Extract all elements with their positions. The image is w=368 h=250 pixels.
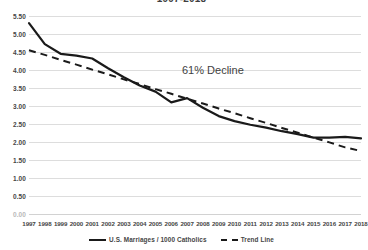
y-tick-label: 3.50 [13, 85, 26, 92]
chart-title: 1997-2018 [0, 0, 363, 4]
x-tick-label: 2000 [70, 220, 83, 227]
x-tick-label: 2005 [149, 220, 162, 227]
plot-area [29, 16, 361, 214]
y-tick-label: 4.00 [13, 67, 26, 74]
x-tick-label: 2015 [307, 220, 320, 227]
y-tick-label: 3.00 [13, 103, 26, 110]
x-tick-label: 2009 [212, 220, 225, 227]
y-tick-label: 4.50 [13, 49, 26, 56]
x-tick-label: 2016 [323, 220, 336, 227]
solid-line-swatch-icon [89, 239, 106, 241]
x-tick-label: 2018 [354, 220, 367, 227]
x-tick-label: 2007 [180, 220, 193, 227]
decline-annotation: 61% Decline [182, 64, 244, 76]
x-tick-label: 2012 [259, 220, 272, 227]
x-tick-label: 2017 [339, 220, 352, 227]
x-tick-label: 2001 [86, 220, 99, 227]
y-tick-label: 1.00 [13, 175, 26, 182]
dashed-line-swatch-icon [221, 239, 238, 241]
x-tick-label: 2008 [196, 220, 209, 227]
x-tick-label: 1998 [38, 220, 51, 227]
series-layer [29, 16, 361, 214]
y-axis-labels: 0.000.501.001.502.002.503.003.504.004.50… [0, 0, 29, 250]
x-tick-label: 1997 [22, 220, 35, 227]
y-tick-label: 0.50 [13, 193, 26, 200]
legend-label-marriages: U.S. Marriages / 1000 Catholics [109, 236, 207, 243]
y-tick-label: 1.50 [13, 157, 26, 164]
x-tick-label: 2004 [133, 220, 146, 227]
x-tick-label: 2002 [101, 220, 114, 227]
y-tick-label: 2.50 [13, 121, 26, 128]
x-tick-label: 2013 [275, 220, 288, 227]
y-tick-label: 0.00 [13, 211, 26, 218]
gridline [29, 214, 361, 215]
marriages-series [29, 23, 361, 138]
chart-legend: U.S. Marriages / 1000 Catholics Trend Li… [0, 236, 363, 243]
legend-item-marriages: U.S. Marriages / 1000 Catholics [89, 236, 207, 243]
legend-label-trend: Trend Line [241, 236, 274, 243]
x-tick-label: 2014 [291, 220, 304, 227]
y-tick-label: 5.00 [13, 31, 26, 38]
x-axis-labels: 1997199819992000200120022003200420052006… [29, 220, 361, 232]
x-tick-label: 2010 [228, 220, 241, 227]
y-tick-label: 5.50 [13, 13, 26, 20]
x-tick-label: 2003 [117, 220, 130, 227]
legend-item-trend: Trend Line [221, 236, 274, 243]
x-tick-label: 2006 [165, 220, 178, 227]
x-tick-label: 2011 [244, 220, 257, 227]
y-tick-label: 2.00 [13, 139, 26, 146]
x-tick-label: 1999 [54, 220, 67, 227]
